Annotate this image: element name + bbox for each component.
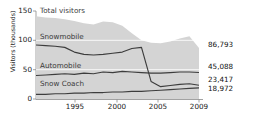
x-tick-2009: 2009 (184, 103, 214, 111)
x-axis-ticks: 1995 2000 2005 2009 (0, 0, 256, 121)
x-tick-2005: 2005 (143, 103, 173, 111)
x-tick-1995: 1995 (60, 103, 90, 111)
visitors-area-chart: Visitors (thousands) 150 100 50 0 Total … (0, 0, 256, 121)
x-tick-2000: 2000 (102, 103, 132, 111)
